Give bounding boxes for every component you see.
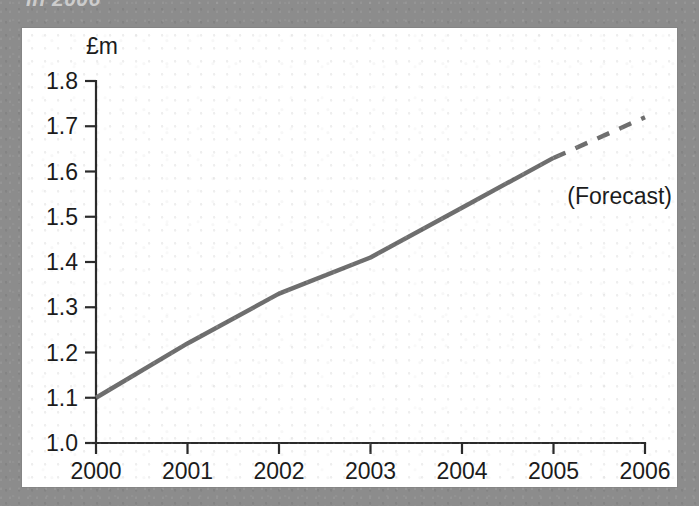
y-tick-label: 1.2	[46, 340, 78, 366]
x-tick-label: 2000	[70, 458, 121, 484]
x-tick-label: 2004	[436, 458, 487, 484]
x-tick-label: 2005	[528, 458, 579, 484]
y-tick-label: 1.1	[46, 385, 78, 411]
x-tick-label: 2006	[619, 458, 670, 484]
y-tick-label: 1.5	[46, 204, 78, 230]
y-tick-label: 1.8	[46, 68, 78, 94]
chart-panel: 1.01.11.21.31.41.51.61.71.82000200120022…	[22, 28, 677, 487]
forecast-series-line	[554, 117, 646, 158]
x-tick-label: 2001	[162, 458, 213, 484]
y-tick-label: 1.3	[46, 294, 78, 320]
forecast-annotation-label: (Forecast)	[567, 183, 672, 209]
y-axis-unit-label: £m	[86, 33, 118, 59]
clipped-caption-text: in 2006	[26, 0, 101, 11]
x-tick-label: 2003	[345, 458, 396, 484]
y-tick-label: 1.0	[46, 430, 78, 456]
line-chart: 1.01.11.21.31.41.51.61.71.82000200120022…	[22, 28, 677, 487]
y-tick-label: 1.4	[46, 249, 78, 275]
actual-series-line	[96, 158, 554, 398]
x-tick-label: 2002	[253, 458, 304, 484]
y-tick-label: 1.6	[46, 159, 78, 185]
y-tick-label: 1.7	[46, 113, 78, 139]
figure-container: in 2006 1.01.11.21.31.41.51.61.71.820002…	[0, 0, 699, 506]
